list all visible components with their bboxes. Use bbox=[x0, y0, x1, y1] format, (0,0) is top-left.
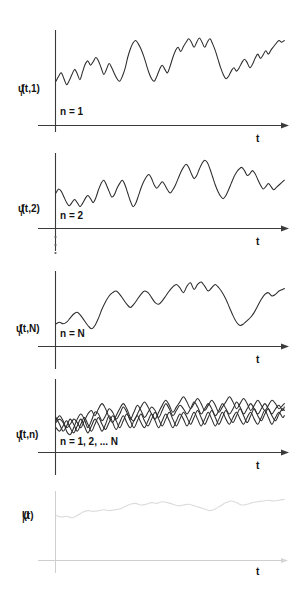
panel-2-y-label: u*i(t,2) bbox=[18, 202, 48, 217]
panel-ensemble-overlay: u*i(t,n) n = 1, 2, ... N t bbox=[0, 375, 296, 487]
panel-ensemble-2: u*i(t,2) n = 2 t bbox=[0, 147, 296, 259]
panel-1-n-label: n = 1 bbox=[60, 107, 83, 117]
panel-5-y-label: Ui(t) bbox=[22, 509, 41, 524]
panel-1-plot bbox=[0, 22, 296, 134]
panel-1-y-label: u*i(t,1) bbox=[18, 82, 48, 97]
panel-2-axis-arrowhead bbox=[281, 226, 289, 232]
panel-2-n-label: n = 2 bbox=[60, 211, 83, 221]
panel-1-axis-arrowhead bbox=[281, 123, 289, 129]
panel-3-t-label: t bbox=[256, 355, 259, 365]
panel-1-t-label: t bbox=[256, 134, 259, 144]
panel-4-n-label: n = 1, 2, ... N bbox=[60, 437, 118, 447]
panel-3-y-label: u*i(t,N) bbox=[16, 322, 47, 337]
panel-3-axis-arrowhead bbox=[281, 344, 289, 350]
stochastic-process-ensemble-figure: u*i(t,1) n = 1 t u*i(t,2) n = 2 t u*i(t bbox=[0, 0, 296, 598]
panel-mean: Ui(t) t bbox=[0, 487, 296, 598]
panel-ensemble-N: u*i(t,N) n = N t bbox=[0, 265, 296, 377]
panel-4-y-label: u*i(t,n) bbox=[16, 428, 46, 443]
panel-4-axis-arrowhead bbox=[281, 450, 289, 456]
waveform-realization-2 bbox=[56, 160, 284, 206]
panel-3-plot bbox=[0, 265, 296, 377]
panel-3-n-label: n = N bbox=[60, 329, 85, 339]
panel-4-t-label: t bbox=[256, 461, 259, 471]
waveform-realization-1 bbox=[56, 38, 284, 85]
waveform-ensemble-mean bbox=[56, 499, 284, 517]
waveform-realization-N bbox=[56, 282, 284, 329]
panel-5-axis-arrowhead bbox=[281, 558, 288, 563]
panel-ensemble-1: u*i(t,1) n = 1 t bbox=[0, 22, 296, 134]
panel-5-t-label: t bbox=[256, 567, 259, 577]
panel-5-plot bbox=[0, 487, 296, 598]
panel-2-t-label: t bbox=[256, 237, 259, 247]
